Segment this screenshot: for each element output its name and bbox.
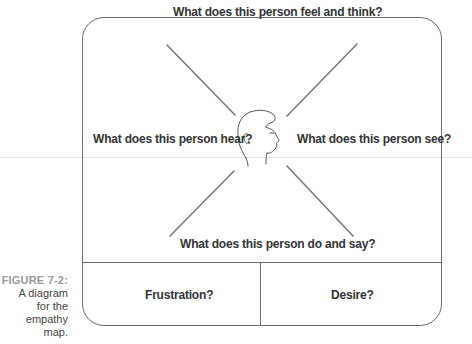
diagonal-lines bbox=[0, 0, 472, 344]
quadrant-top-label: What does this person feel and think? bbox=[173, 5, 382, 19]
diagonal-top-left bbox=[167, 45, 235, 115]
quadrant-left-label: What does this person hear? bbox=[93, 132, 252, 146]
frustration-cell-label: Frustration? bbox=[145, 288, 213, 302]
diagonal-bottom-right bbox=[287, 166, 353, 236]
quadrant-bottom-label: What does this person do and say? bbox=[180, 237, 375, 251]
diagonal-bottom-left bbox=[170, 171, 234, 236]
quadrant-right-label: What does this person see? bbox=[297, 132, 451, 146]
desire-cell-label: Desire? bbox=[331, 288, 374, 302]
diagonal-top-right bbox=[287, 44, 357, 116]
